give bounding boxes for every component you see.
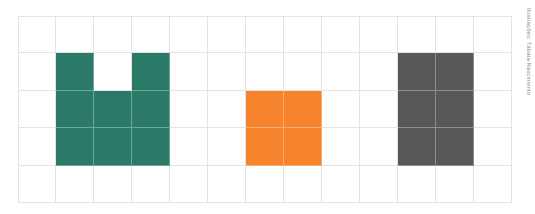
grid-cell: [94, 16, 132, 53]
grid-cell: [436, 53, 474, 90]
grid-cell: [284, 16, 322, 53]
grid-cell: [208, 53, 246, 90]
grid-cell: [170, 16, 208, 53]
grid-cell: [436, 91, 474, 128]
grid-cell: [170, 91, 208, 128]
grid-cell: [56, 166, 94, 203]
grid-cell: [284, 128, 322, 165]
grid-cell: [170, 166, 208, 203]
grid-cell: [56, 53, 94, 90]
grid-cell: [474, 166, 512, 203]
grid-cell: [322, 53, 360, 90]
grid-cell: [436, 166, 474, 203]
grid-cell: [18, 166, 56, 203]
grid-cell: [132, 128, 170, 165]
grid-cell: [398, 16, 436, 53]
grid-cell: [284, 166, 322, 203]
grid-cell: [208, 16, 246, 53]
grid-cell: [360, 128, 398, 165]
grid-cell: [132, 16, 170, 53]
grid-cell: [246, 53, 284, 90]
grid-cell: [322, 91, 360, 128]
grid-cell: [208, 128, 246, 165]
grid-cell: [398, 53, 436, 90]
grid-cell: [398, 128, 436, 165]
grid-cell: [18, 91, 56, 128]
grid-cell: [284, 53, 322, 90]
grid-cell: [360, 166, 398, 203]
grid-board: [18, 16, 512, 203]
grid-cell: [18, 53, 56, 90]
grid-cell: [398, 166, 436, 203]
grid-cell: [284, 91, 322, 128]
grid-cell: [94, 166, 132, 203]
grid-cell: [474, 53, 512, 90]
grid-cell: [474, 128, 512, 165]
grid-cell: [170, 128, 208, 165]
grid-cell: [322, 128, 360, 165]
grid-cell: [360, 53, 398, 90]
grid-cell: [246, 166, 284, 203]
grid-cell: [170, 53, 208, 90]
figure-root: Ilustrações: Tábata Nascimento: [0, 0, 535, 214]
illustration-credit: Ilustrações: Tábata Nascimento: [526, 8, 532, 95]
grid-cell: [360, 16, 398, 53]
grid-cell: [56, 91, 94, 128]
grid-cell: [322, 166, 360, 203]
grid-cell: [398, 91, 436, 128]
grid-cell: [56, 16, 94, 53]
grid-cell: [208, 91, 246, 128]
grid-cell: [246, 91, 284, 128]
grid-cell: [322, 16, 360, 53]
grid-cell: [132, 166, 170, 203]
grid-cell: [94, 91, 132, 128]
grid-cell: [474, 16, 512, 53]
grid-cell: [94, 53, 132, 90]
grid-background-cells: [18, 16, 512, 203]
grid-cell: [208, 166, 246, 203]
grid-cell: [360, 91, 398, 128]
grid-cell: [94, 128, 132, 165]
grid-cell: [132, 53, 170, 90]
grid-cell: [474, 91, 512, 128]
grid-cell: [246, 128, 284, 165]
grid-cell: [56, 128, 94, 165]
grid-cell: [436, 16, 474, 53]
grid-cell: [246, 16, 284, 53]
grid-cell: [132, 91, 170, 128]
grid-cell: [436, 128, 474, 165]
grid-cell: [18, 16, 56, 53]
grid-cell: [18, 128, 56, 165]
